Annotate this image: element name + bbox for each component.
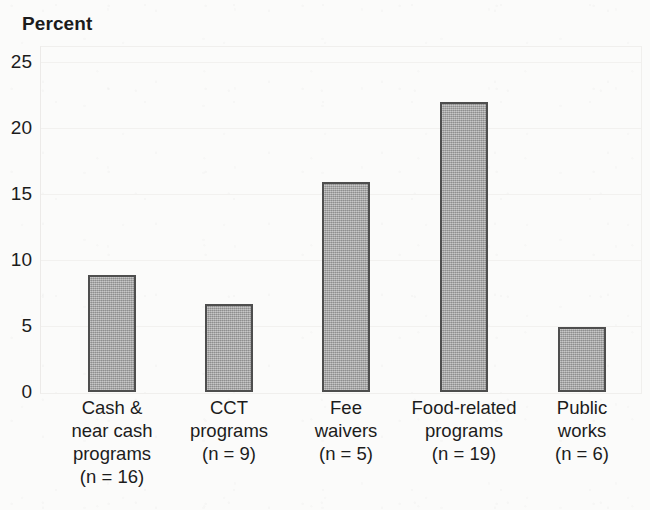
category-label-line: (n = 19) [401, 442, 527, 465]
category-label-line: programs [166, 419, 292, 442]
category-label-line: Public [519, 396, 645, 419]
category-label-line: Fee [283, 396, 409, 419]
category-label-line: (n = 16) [49, 465, 175, 488]
x-axis-category-label: Food-relatedprograms(n = 19) [401, 396, 527, 465]
bar [88, 275, 136, 392]
category-label-line: (n = 6) [519, 442, 645, 465]
chart-figure: Percent 0510152025 Cash &near cashprogra… [0, 0, 650, 510]
category-label-line: Cash & [49, 396, 175, 419]
x-axis-category-label: Publicworks(n = 6) [519, 396, 645, 465]
category-label-line: programs [49, 442, 175, 465]
category-label-line: (n = 5) [283, 442, 409, 465]
bar [440, 102, 488, 392]
x-axis-category-label: Feewaivers(n = 5) [283, 396, 409, 465]
bar [205, 304, 253, 392]
category-label-line: programs [401, 419, 527, 442]
category-label-line: CCT [166, 396, 292, 419]
category-label-line: near cash [49, 419, 175, 442]
x-axis-category-label: Cash &near cashprograms(n = 16) [49, 396, 175, 488]
x-axis-category-label: CCTprograms(n = 9) [166, 396, 292, 465]
category-label-line: Food-related [401, 396, 527, 419]
category-label-line: waivers [283, 419, 409, 442]
bar [322, 182, 370, 392]
category-label-line: (n = 9) [166, 442, 292, 465]
category-label-line: works [519, 419, 645, 442]
bar [558, 327, 606, 392]
